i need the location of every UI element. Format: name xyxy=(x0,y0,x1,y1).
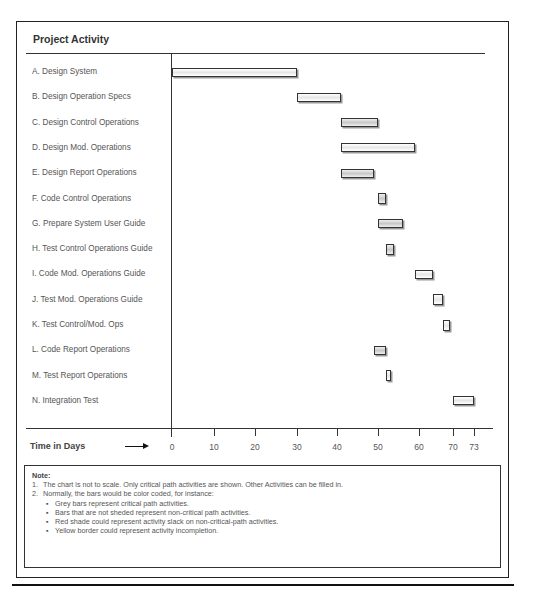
bullet-icon: ▪ xyxy=(46,508,55,517)
task-bar xyxy=(453,396,474,405)
right-arrow-icon xyxy=(125,446,145,447)
axis-tick xyxy=(255,428,256,436)
bullet-text: Red shade could represent activity slack… xyxy=(55,517,278,526)
task-bar xyxy=(386,370,391,381)
task-bar xyxy=(341,169,374,178)
axis-tick xyxy=(337,428,338,436)
task-label: B. Design Operation Specs xyxy=(32,92,131,101)
note-box: Note: 1. The chart is not to scale. Only… xyxy=(24,465,501,568)
task-label: N. Integration Test xyxy=(32,396,98,405)
task-bar xyxy=(341,143,415,152)
bullet-icon: ▪ xyxy=(46,517,55,526)
task-bar xyxy=(341,118,378,127)
task-label: K. Test Control/Mod. Ops xyxy=(32,320,123,329)
task-label: I. Code Mod. Operations Guide xyxy=(32,269,145,278)
bullet-text: Grey bars represent critical path activi… xyxy=(55,499,189,508)
page-bottom-rule xyxy=(12,584,514,586)
note-number: 2. xyxy=(32,489,43,498)
task-label: J. Test Mod. Operations Guide xyxy=(32,295,142,304)
axis-tick xyxy=(453,428,454,436)
axis-tick-label: 40 xyxy=(332,442,341,452)
task-bar xyxy=(378,219,403,228)
task-bar xyxy=(443,320,450,331)
axis-tick-label: 30 xyxy=(292,442,301,452)
bullet-text: Yellow border could represent activity i… xyxy=(55,526,218,535)
axis-tick xyxy=(378,428,379,436)
task-label: M. Test Report Operations xyxy=(32,371,127,380)
axis-tick-label: 70 xyxy=(448,442,457,452)
note-title: Note: xyxy=(32,471,493,480)
axis-tick-label: 50 xyxy=(373,442,382,452)
note-number: 1. xyxy=(32,480,43,489)
task-label: H. Test Control Operations Guide xyxy=(32,244,152,253)
axis-tick-label: 10 xyxy=(209,442,218,452)
task-label: C. Design Control Operations xyxy=(32,118,139,127)
task-bar xyxy=(415,270,433,279)
axis-tick-label: 60 xyxy=(414,442,423,452)
note-item: 2. Normally, the bars would be color cod… xyxy=(32,489,493,498)
bullet-icon: ▪ xyxy=(46,526,55,535)
note-item: 1. The chart is not to scale. Only criti… xyxy=(32,480,493,489)
task-label: D. Design Mod. Operations xyxy=(32,143,131,152)
note-text: The chart is not to scale. Only critical… xyxy=(43,480,343,489)
axis-tick-label: 73 xyxy=(469,442,478,452)
task-label: F. Code Control Operations xyxy=(32,194,131,203)
task-label: L. Code Report Operations xyxy=(32,345,130,354)
axis-tick xyxy=(419,428,420,436)
task-bar xyxy=(172,68,297,77)
task-bar xyxy=(297,93,341,102)
axis-tick xyxy=(214,428,215,436)
task-bar xyxy=(374,346,386,355)
time-axis-line xyxy=(26,428,493,429)
task-label: E. Design Report Operations xyxy=(32,168,137,177)
header-divider xyxy=(26,53,485,54)
note-bullet: ▪Grey bars represent critical path activ… xyxy=(32,499,493,508)
axis-tick-label: 20 xyxy=(250,442,259,452)
task-bar xyxy=(378,193,386,204)
task-bar xyxy=(433,294,443,305)
bullet-icon: ▪ xyxy=(46,499,55,508)
axis-tick-label: 0 xyxy=(170,442,175,452)
bullet-text: Bars that are not sheded represent non-c… xyxy=(55,508,250,517)
task-bar xyxy=(386,244,394,255)
chart-title: Project Activity xyxy=(33,33,109,45)
time-zero-axis-line xyxy=(171,53,172,437)
note-text: Normally, the bars would be color coded,… xyxy=(43,489,214,498)
task-label: G. Prepare System User Guide xyxy=(32,219,145,228)
axis-title: Time in Days xyxy=(30,441,85,451)
axis-tick xyxy=(474,428,475,436)
task-label: A. Design System xyxy=(32,67,97,76)
note-bullet: ▪Bars that are not sheded represent non-… xyxy=(32,508,493,517)
note-bullet: ▪Yellow border could represent activity … xyxy=(32,526,493,535)
note-bullet: ▪Red shade could represent activity slac… xyxy=(32,517,493,526)
axis-tick xyxy=(297,428,298,436)
